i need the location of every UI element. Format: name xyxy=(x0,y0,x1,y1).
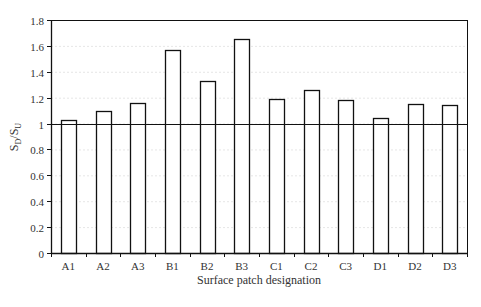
y-tick-label: 1.8 xyxy=(30,15,44,27)
x-tick-label: B2 xyxy=(201,260,214,272)
bars xyxy=(62,40,458,254)
gridlines xyxy=(51,46,467,227)
y-tick-label: 0.6 xyxy=(30,170,44,182)
bar-a1 xyxy=(62,121,77,254)
y-axis-ticks: 00.20.40.60.811.21.41.61.8 xyxy=(30,15,51,260)
y-tick-label: 0 xyxy=(39,248,45,260)
bar-d1 xyxy=(374,119,389,254)
x-tick-label: D1 xyxy=(374,260,387,272)
bar-d3 xyxy=(443,106,458,254)
bar-b2 xyxy=(201,82,216,254)
x-tick-label: A1 xyxy=(62,260,75,272)
axes xyxy=(51,20,468,254)
bar-c2 xyxy=(305,91,320,254)
bar-b1 xyxy=(166,51,181,254)
bar-c3 xyxy=(339,101,354,254)
bar-a3 xyxy=(131,104,146,254)
y-tick-label: 0.2 xyxy=(30,222,44,234)
x-tick-label: D2 xyxy=(408,260,421,272)
bar-d2 xyxy=(409,105,424,254)
y-tick-label: 1 xyxy=(39,119,45,131)
bar-c1 xyxy=(270,100,285,254)
x-tick-label: A3 xyxy=(131,260,145,272)
x-tick-label: B1 xyxy=(166,260,179,272)
y-tick-label: 1.4 xyxy=(30,67,44,79)
x-axis-ticks: A1A2A3B1B2B3C1C2C3D1D2D3 xyxy=(52,253,468,272)
x-tick-label: A2 xyxy=(96,260,109,272)
y-tick-label: 1.6 xyxy=(30,41,44,53)
bar-b3 xyxy=(235,40,250,254)
svg-text:SD/SU: SD/SU xyxy=(7,123,23,151)
x-tick-label: C2 xyxy=(305,260,318,272)
y-tick-label: 1.2 xyxy=(30,93,44,105)
x-tick-label: C3 xyxy=(339,260,352,272)
bar-a2 xyxy=(97,112,112,254)
x-tick-label: B3 xyxy=(235,260,248,272)
x-axis-title: Surface patch designation xyxy=(197,273,321,287)
y-tick-label: 0.4 xyxy=(30,196,44,208)
bar-chart: 00.20.40.60.811.21.41.61.8 A1A2A3B1B2B3C… xyxy=(0,0,481,307)
y-axis-title: SD/SU xyxy=(7,123,23,151)
x-tick-label: C1 xyxy=(270,260,283,272)
x-tick-label: D3 xyxy=(443,260,457,272)
y-tick-label: 0.8 xyxy=(30,144,44,156)
